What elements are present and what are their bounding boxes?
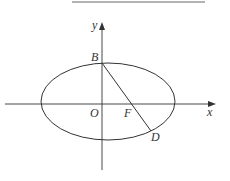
- ellipse-diagram: y x O B F D: [0, 0, 230, 181]
- origin-label: O: [90, 106, 99, 120]
- ellipse: [41, 63, 175, 140]
- x-axis-label: x: [206, 105, 213, 119]
- y-axis-arrow-icon: [99, 22, 105, 30]
- chord-bd: [102, 63, 151, 131]
- point-b-label: B: [91, 50, 99, 64]
- point-f-label: F: [123, 106, 132, 120]
- point-d-label: D: [150, 130, 160, 144]
- y-axis-label: y: [91, 18, 98, 32]
